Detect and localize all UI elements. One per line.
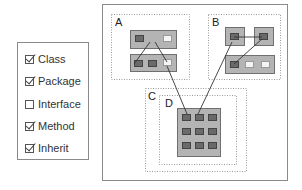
method-icon [231, 62, 239, 68]
method-icon [149, 61, 157, 67]
method-grid [183, 115, 217, 149]
package-label-b: B [212, 16, 219, 28]
package-label-d: D [165, 97, 173, 109]
interface-icon [262, 62, 270, 68]
package-label-a: A [115, 16, 122, 28]
interface-icon [164, 36, 172, 42]
interface-icon [164, 60, 172, 66]
method-icon [260, 34, 268, 40]
method-icon [136, 36, 144, 42]
package-label-c: C [148, 90, 156, 102]
interface-icon [246, 62, 254, 68]
method-icon [231, 34, 239, 40]
